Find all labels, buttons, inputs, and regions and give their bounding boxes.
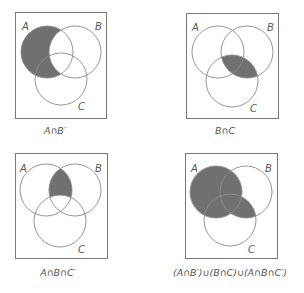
label-b: B [265, 163, 272, 174]
label-a: A [190, 163, 198, 174]
panel-union: A B C (A∩B′)∪(B∩C)∪(A∩B∩C′) [173, 154, 287, 279]
panel-b-and-c: A B C B∩C [187, 14, 279, 137]
panel-a-and-b-and-not-c: A B C A∩B∩C′ [16, 154, 108, 279]
label-c: C [78, 244, 85, 255]
caption: A∩B∩C′ [39, 267, 77, 278]
label-a: A [19, 163, 27, 174]
label-c: C [78, 101, 85, 112]
label-c: C [250, 103, 257, 114]
label-b: B [95, 21, 102, 32]
label-b: B [95, 163, 102, 174]
label-a: A [191, 22, 199, 33]
panel-a-and-not-b: A B C A∩B′ [16, 13, 107, 137]
label-c: C [248, 244, 255, 255]
caption: A∩B′ [43, 125, 67, 136]
label-b: B [267, 22, 274, 33]
label-a: A [21, 21, 29, 32]
caption: (A∩B′)∪(B∩C)∪(A∩B∩C′) [173, 267, 287, 278]
venn-diagram-figure: A B C A∩B′ A B C B∩C A B C A∩B∩C′ [0, 0, 304, 293]
caption: B∩C [215, 125, 235, 136]
